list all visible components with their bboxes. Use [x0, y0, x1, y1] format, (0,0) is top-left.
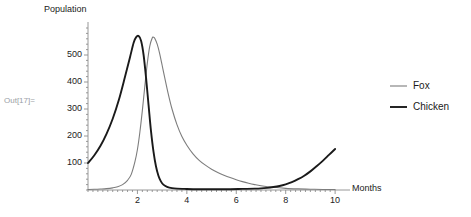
legend-item-chicken[interactable]: Chicken — [390, 101, 449, 113]
x-axis-title: Months — [352, 183, 382, 193]
x-tick-label: 10 — [327, 195, 343, 205]
x-tick-label: 4 — [179, 195, 195, 205]
x-tick-label: 8 — [278, 195, 294, 205]
plot-area: Population Months 246810100200300400500 — [0, 0, 400, 217]
y-axis-title: Population — [44, 4, 87, 14]
legend-item-fox[interactable]: Fox — [390, 80, 449, 92]
legend-label-fox: Fox — [413, 80, 430, 92]
y-tick-label: 300 — [56, 103, 82, 113]
series-line-fox — [88, 37, 335, 189]
mathematica-output-cell: Out[17]= Population Months 2468101002003… — [0, 0, 471, 217]
y-tick-label: 200 — [56, 130, 82, 140]
y-tick-label: 400 — [56, 76, 82, 86]
legend-label-chicken: Chicken — [413, 101, 449, 113]
legend-swatch-chicken — [390, 104, 407, 110]
x-tick-label: 6 — [228, 195, 244, 205]
y-tick-label: 100 — [56, 157, 82, 167]
series-line-chicken — [88, 36, 335, 189]
x-tick-label: 2 — [129, 195, 145, 205]
legend: Fox Chicken — [390, 80, 449, 113]
legend-swatch-fox — [390, 83, 407, 89]
y-tick-label: 500 — [56, 49, 82, 59]
